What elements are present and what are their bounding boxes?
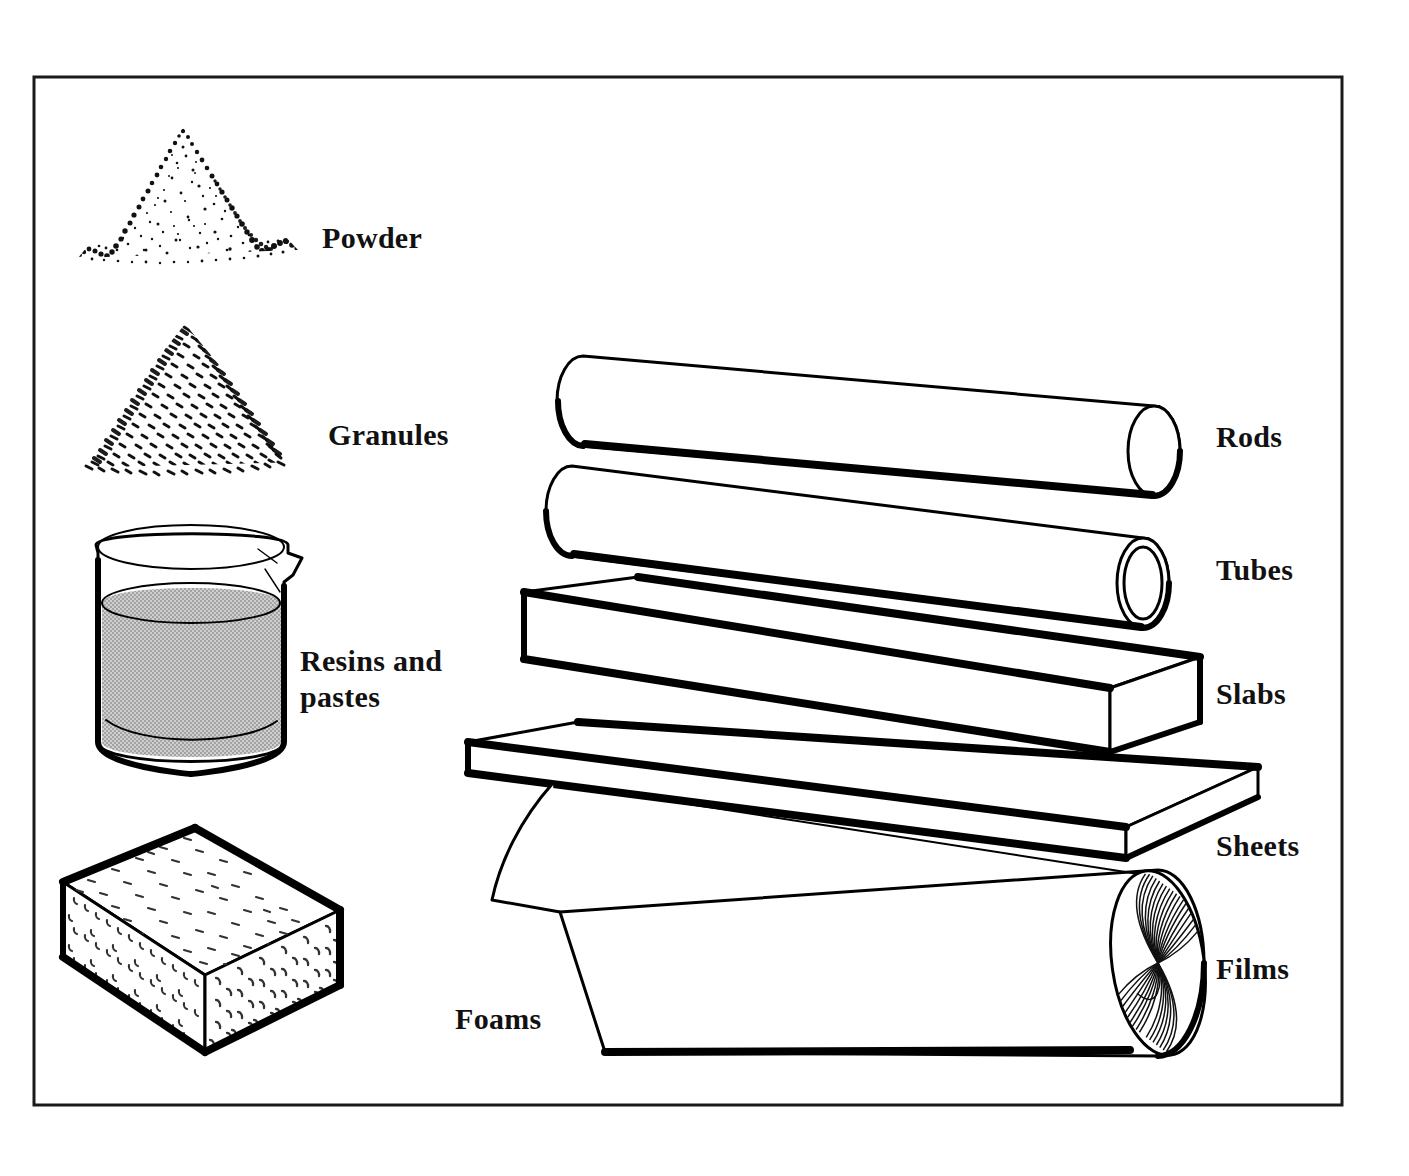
granules-label: Granules	[328, 418, 449, 451]
powder-heap-icon	[78, 129, 300, 264]
beaker-icon	[96, 525, 302, 774]
figure-illustration: Powder	[0, 0, 1409, 1176]
slabs-label: Slabs	[1216, 677, 1286, 710]
powder-label: Powder	[322, 221, 422, 254]
foams-label: Foams	[455, 1002, 542, 1035]
rods-label: Rods	[1216, 420, 1282, 453]
figure-root: Powder	[0, 0, 1409, 1176]
sheets-label: Sheets	[1216, 829, 1299, 862]
resins-label-line2: pastes	[300, 680, 380, 713]
tubes-label: Tubes	[1216, 553, 1293, 586]
granules-heap-icon	[86, 327, 284, 475]
films-label: Films	[1216, 952, 1289, 985]
resins-label-line1: Resins and	[300, 644, 442, 677]
foam-block-icon	[63, 828, 340, 1052]
